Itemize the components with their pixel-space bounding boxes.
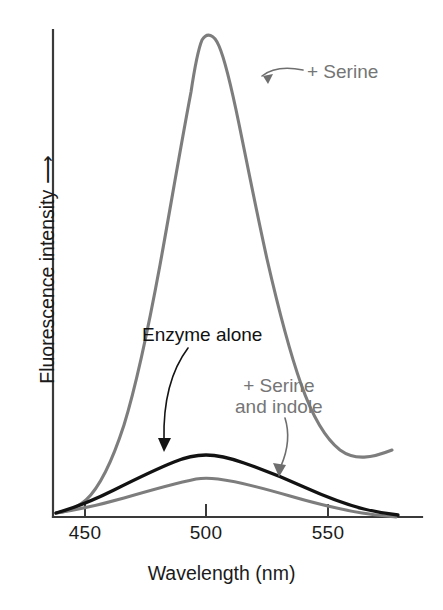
x-tick-label-450: 450 — [55, 522, 115, 544]
serine-leader-line — [262, 68, 303, 76]
figure-root: 450 500 550 Wavelength (nm) Fluorescence… — [0, 0, 443, 610]
curve-enzyme — [56, 455, 398, 515]
curve-serine — [56, 35, 392, 513]
serine-indole-leader-line — [281, 418, 288, 466]
annotation-enzyme-alone: Enzyme alone — [142, 324, 262, 346]
curve-serine-indole — [56, 478, 396, 517]
enzyme-arrowhead — [158, 438, 171, 452]
enzyme-leader-line — [164, 348, 188, 440]
y-axis-title-wrapper: Fluorescence intensity ⟶ — [36, 60, 59, 480]
annotation-serine-indole-line2: and indole — [235, 396, 323, 417]
serine-arrowhead — [263, 74, 273, 84]
plot-canvas — [0, 0, 443, 610]
x-tick-label-500: 500 — [176, 522, 236, 544]
y-axis-title: Fluorescence intensity ⟶ — [36, 155, 58, 383]
x-axis-title: Wavelength (nm) — [0, 562, 443, 585]
annotation-serine-indole-line1: + Serine — [235, 375, 323, 396]
annotation-serine-indole: + Serine and indole — [235, 375, 323, 418]
annotation-serine: + Serine — [307, 61, 378, 83]
x-tick-label-550: 550 — [298, 522, 358, 544]
